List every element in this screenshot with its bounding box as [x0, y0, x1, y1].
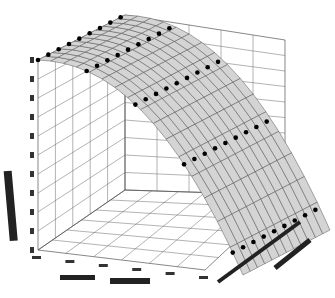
surface-plot	[0, 0, 335, 298]
surface	[38, 15, 330, 275]
